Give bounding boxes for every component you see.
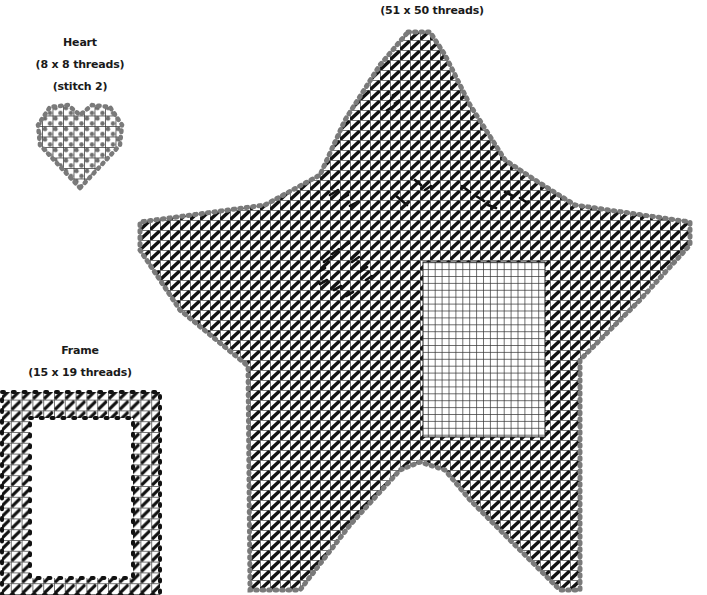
photo-window xyxy=(423,262,545,437)
heart-outline xyxy=(38,105,122,188)
frame-outline xyxy=(2,392,160,595)
frame-title: Frame xyxy=(61,344,99,357)
star-dimensions-label: (51 x 50 threads) xyxy=(380,4,484,17)
heart-title: Heart xyxy=(63,36,97,49)
frame-piece xyxy=(2,392,160,595)
heart-piece xyxy=(38,105,122,188)
heart-stitch-count-label: (stitch 2) xyxy=(53,80,108,93)
star-outline xyxy=(140,32,690,590)
heart-dimensions-label: (8 x 8 threads) xyxy=(36,58,125,71)
frame-dimensions-label: (15 x 19 threads) xyxy=(28,366,132,379)
star-piece xyxy=(140,32,690,590)
